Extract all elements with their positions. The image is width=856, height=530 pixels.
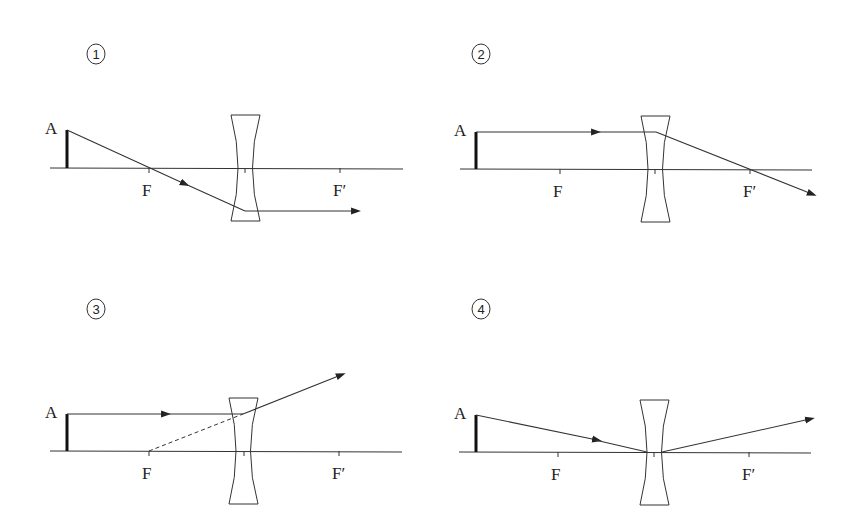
lens-ray-diagrams: 1 A F F′ 2 A F F′ 3 <box>0 0 856 530</box>
refracted-ray <box>662 419 810 452</box>
optical-axis <box>459 452 811 453</box>
object-label: A <box>454 121 467 140</box>
panel-number: 4 <box>477 302 484 317</box>
focus-label-f: F <box>142 181 151 200</box>
optical-axis <box>50 451 402 452</box>
panel-2: 2 A F F′ <box>454 44 812 222</box>
incident-ray-cont <box>595 440 647 452</box>
optical-axis <box>50 168 403 169</box>
panel-1: 1 A F F′ <box>45 44 403 221</box>
focus-label-f-prime: F′ <box>743 182 756 201</box>
incident-ray <box>67 130 185 184</box>
focus-label-f: F <box>551 465 560 484</box>
panel-number-badge: 4 <box>472 299 490 319</box>
refracted-ray <box>243 375 341 414</box>
focus-label-f: F <box>142 464 151 483</box>
refracted-ray <box>656 132 812 194</box>
panel-number: 2 <box>477 47 484 62</box>
virtual-ray-dashed <box>149 414 243 451</box>
panel-4: 4 A F F′ <box>454 299 811 505</box>
focus-label-f-prime: F′ <box>742 465 755 484</box>
panel-number-badge: 1 <box>87 44 105 64</box>
focus-label-f-prime: F′ <box>332 464 345 483</box>
panel-number: 1 <box>92 47 99 62</box>
object-label: A <box>45 403 58 422</box>
object-label: A <box>45 119 58 138</box>
incident-ray <box>476 415 597 440</box>
panel-number-badge: 2 <box>472 44 490 64</box>
focus-label-f: F <box>553 182 562 201</box>
object-label: A <box>454 404 467 423</box>
panel-number-badge: 3 <box>87 299 105 319</box>
focus-label-f-prime: F′ <box>333 181 346 200</box>
optical-axis <box>460 169 812 170</box>
panel-3: 3 A F F′ <box>45 299 402 504</box>
panel-number: 3 <box>92 302 99 317</box>
concave-lens <box>231 115 260 221</box>
